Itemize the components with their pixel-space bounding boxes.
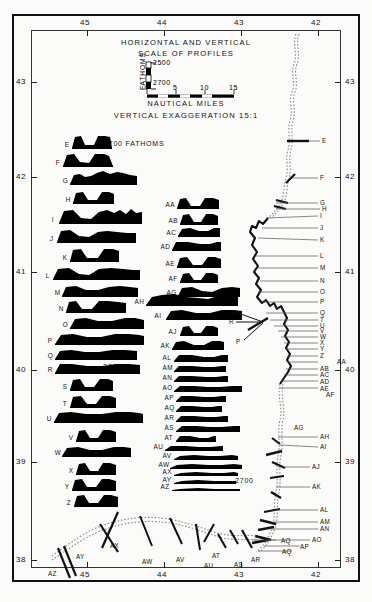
track-label-Z: Z [320, 352, 324, 359]
track-label-AD: AD [320, 378, 329, 385]
track-label-AA: AA [337, 358, 346, 365]
track-label-H: H [322, 205, 327, 212]
ship-track-graphic [0, 0, 372, 602]
track-label-F: F [320, 174, 324, 181]
track-label-Q: Q [320, 309, 325, 316]
track-label-Y: Y [320, 345, 325, 352]
track-label-AO: AO [312, 536, 322, 543]
track-label-bottom-AX: AX [110, 542, 119, 549]
track-label-J: J [320, 224, 323, 231]
track-label-L: L [320, 252, 324, 259]
track-label-K: K [320, 236, 325, 243]
track-label-AN: AN [320, 525, 329, 532]
track-label-M: M [320, 264, 326, 271]
track-label-AH: AH [320, 433, 329, 440]
track-label-AG: AG [294, 424, 304, 431]
track-label-E: E [322, 137, 327, 144]
track-label-bottom-AS: AS [234, 561, 243, 568]
track-label-R: R [229, 318, 234, 325]
track-label-bottom-AY: AY [76, 553, 85, 560]
track-label-AK: AK [312, 483, 321, 490]
track-label-bottom-AR: AR [251, 556, 260, 563]
track-label-N: N [320, 277, 325, 284]
track-label-AJ: AJ [312, 463, 320, 470]
track-label-I: I [320, 212, 322, 219]
bathymetric-profile-figure: 45 44 43 42 45 44 43 42 43 42 41 40 39 3… [0, 0, 372, 602]
track-label-AQ: AQ [282, 548, 292, 555]
track-label-AL: AL [320, 506, 328, 513]
track-label-bottom-AW: AW [142, 558, 153, 565]
track-label-bottom-AU: AU [204, 562, 213, 569]
track-label-AM: AM [320, 518, 330, 525]
track-label-AI: AI [320, 443, 327, 450]
track-label-AC: AC [320, 371, 329, 378]
track-label-S: S [231, 309, 236, 316]
track-label-O: O [320, 288, 325, 295]
track-label-P2: P [236, 338, 241, 345]
track-label-P: P [320, 298, 325, 305]
track-label-bottom-AT: AT [212, 552, 220, 559]
track-label-bottom-AV: AV [176, 556, 185, 563]
track-label-AF: AF [326, 391, 335, 398]
track-label-AP: AP [300, 543, 309, 550]
track-label-bottom-AZ: AZ [48, 570, 57, 577]
track-label-bottom-AQ: AQ [281, 537, 291, 544]
